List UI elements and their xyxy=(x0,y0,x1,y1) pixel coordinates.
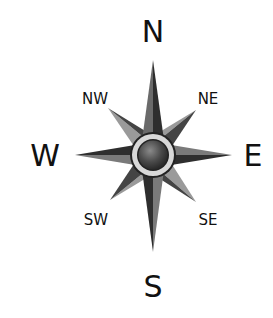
center-ball xyxy=(139,141,168,170)
label-nw: NW xyxy=(82,90,108,108)
compass-rose: N S W E NW NE SW SE xyxy=(0,0,273,318)
label-w: W xyxy=(30,138,60,173)
label-ne: NE xyxy=(198,90,219,108)
label-e: E xyxy=(244,138,263,173)
label-n: N xyxy=(142,14,164,49)
label-se: SE xyxy=(199,211,218,229)
label-sw: SW xyxy=(84,211,109,229)
label-s: S xyxy=(143,269,162,304)
